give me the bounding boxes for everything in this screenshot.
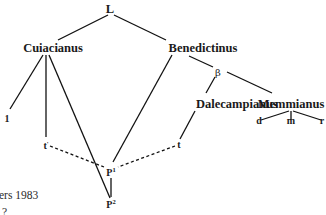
node-p2-sup: 2	[112, 198, 115, 205]
edge-benedictinus-beta	[189, 56, 213, 67]
edge-cuiacianus-p2	[49, 55, 110, 198]
node-p1-sup: 1	[112, 166, 115, 173]
edge-memmianus-r	[293, 111, 321, 120]
nodes: L Cuiacianus Benedictinus β Dalecampianu…	[5, 2, 325, 210]
node-t-prime: t'	[43, 140, 48, 151]
caption-second-line-fragment: ?	[2, 206, 7, 215]
stemma-diagram: L Cuiacianus Benedictinus β Dalecampianu…	[0, 0, 326, 215]
node-r: r	[320, 115, 325, 126]
edge-beta-dalecampianus	[206, 77, 215, 93]
node-L: L	[106, 2, 114, 16]
edge-L-benedictinus	[114, 15, 166, 40]
node-benedictinus: Benedictinus	[169, 41, 238, 55]
edge-dalecampianus-t	[180, 111, 195, 139]
node-memmianus: Memmianus	[258, 97, 325, 111]
edge-benedictinus-p1	[113, 55, 172, 162]
node-p1: P1	[106, 166, 115, 178]
node-d: d	[256, 115, 262, 126]
edge-L-cuiacianus	[58, 15, 108, 40]
edge-t-p1-dashed	[118, 146, 175, 167]
edge-cuiacianus-1	[10, 55, 43, 109]
figure-caption: ers 1983	[0, 189, 39, 201]
node-beta: β	[215, 67, 221, 78]
node-m: m	[287, 115, 296, 126]
node-p2: P2	[106, 198, 115, 210]
edge-memmianus-d	[261, 111, 289, 120]
node-1: 1	[5, 113, 10, 124]
node-cuiacianus: Cuiacianus	[23, 41, 83, 55]
edge-beta-memmianus	[227, 72, 272, 93]
node-t-prime-mark: '	[47, 140, 49, 147]
node-t: t	[177, 139, 181, 150]
